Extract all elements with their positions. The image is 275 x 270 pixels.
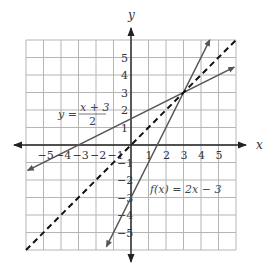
- y-tick-label: 4: [121, 69, 128, 82]
- x-tick-label: 2: [163, 149, 170, 162]
- y-tick-label: 5: [121, 52, 128, 65]
- x-tick-label: −5: [38, 149, 54, 162]
- y-tick-label: 2: [121, 104, 128, 117]
- x-axis-label: x: [256, 138, 263, 152]
- eq1-numerator: x + 3: [80, 101, 109, 114]
- eq1-lhs: y =: [57, 108, 77, 121]
- y-tick-label: −2: [117, 174, 133, 187]
- eq1-denominator: 2: [89, 115, 96, 128]
- x-tick-label: 4: [198, 149, 205, 162]
- x-tick-label: 5: [216, 149, 223, 162]
- graph: −5−4−3−2−112345−5−4−3−2−112345 x y y = x…: [0, 0, 275, 270]
- x-tick-label: 3: [181, 149, 188, 162]
- x-tick-label: −3: [73, 149, 89, 162]
- equation-label-half-line: y = x + 3 2: [57, 101, 109, 128]
- equation-label-f: f(x) = 2x − 3: [149, 183, 221, 196]
- y-tick-label: −1: [117, 157, 133, 170]
- y-tick-label: 3: [121, 87, 128, 100]
- x-tick-label: −2: [90, 149, 106, 162]
- y-tick-label: −5: [117, 227, 133, 240]
- y-axis-label: y: [127, 8, 135, 22]
